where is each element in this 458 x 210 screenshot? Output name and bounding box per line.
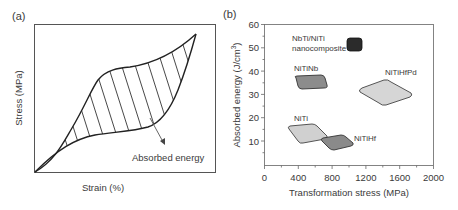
region-nitinb — [295, 75, 327, 89]
panel-a-frame — [35, 25, 216, 173]
label-nanocomposite-line1: NbTi/NiTi — [292, 34, 325, 43]
x-ticks — [265, 166, 434, 170]
x-tick-labels: 0 400 800 1200 1600 2000 — [262, 172, 444, 183]
ytick-20: 20 — [248, 112, 259, 123]
annotation-absorbed-energy: Absorbed energy — [132, 152, 205, 163]
xtick-2000: 2000 — [423, 172, 444, 183]
y-ticks — [261, 25, 265, 153]
xtick-400: 400 — [290, 172, 306, 183]
figure: (a) Absorbed energy Strain (%) Stress (M… — [0, 0, 458, 210]
panel-b: (b) — [223, 8, 444, 198]
panel-a-label: (a) — [12, 10, 25, 22]
xtick-0: 0 — [262, 172, 267, 183]
ytick-50: 50 — [248, 42, 259, 53]
region-nbti-niti-nanocomposite — [347, 38, 362, 51]
y-tick-labels: 60 50 40 30 20 10 — [248, 19, 259, 147]
xtick-800: 800 — [324, 172, 340, 183]
ytick-60: 60 — [248, 19, 259, 30]
xtick-1200: 1200 — [355, 172, 376, 183]
label-nanocomposite-line2: nanocomposite — [292, 44, 347, 53]
ytick-30: 30 — [248, 89, 259, 100]
panel-a-ylabel: Stress (MPa) — [13, 70, 24, 125]
region-nitihfpd — [359, 80, 411, 106]
panel-b-xlabel: Transformation stress (MPa) — [289, 187, 409, 198]
region-nitihf — [321, 135, 353, 150]
label-nitihfpd: NiTiHfPd — [385, 68, 417, 77]
panel-a: (a) Absorbed energy Strain (%) Stress (M… — [12, 10, 216, 193]
annotation-arrow — [150, 118, 162, 140]
ytick-40: 40 — [248, 66, 259, 77]
label-nitihf: NiTiHf — [354, 134, 377, 143]
ytick-10: 10 — [248, 136, 259, 147]
label-nitinb: NiTiNb — [294, 64, 319, 73]
label-niti: NiTi — [294, 114, 308, 123]
panel-a-xlabel: Strain (%) — [82, 182, 124, 193]
panel-b-ylabel: Absorbed energy (J/cm3) — [230, 42, 242, 147]
xtick-1600: 1600 — [389, 172, 410, 183]
arrow-head-icon — [160, 138, 165, 145]
panel-b-label: (b) — [223, 8, 236, 20]
